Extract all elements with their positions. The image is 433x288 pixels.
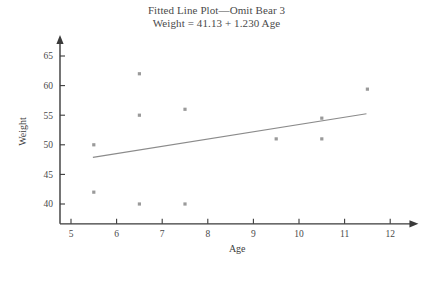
fitted-line-plot: Fitted Line Plot—Omit Bear 3 Weight = 41… — [0, 0, 433, 288]
data-point — [138, 72, 141, 75]
data-point — [320, 137, 323, 140]
x-axis-title: Age — [229, 243, 246, 254]
data-point — [366, 88, 369, 91]
data-point — [138, 114, 141, 117]
data-point — [92, 191, 95, 194]
data-point — [183, 108, 186, 111]
x-tick-label: 7 — [160, 229, 165, 239]
axis-titles: AgeWeight — [17, 117, 246, 254]
y-tick-label: 65 — [44, 51, 54, 61]
data-point — [183, 202, 186, 205]
x-tick-label: 12 — [385, 229, 395, 239]
data-point — [138, 202, 141, 205]
data-points — [92, 72, 369, 205]
chart-canvas: 404550556065 56789101112 AgeWeight — [0, 0, 433, 288]
y-tick-label: 45 — [44, 170, 54, 180]
y-axis-title: Weight — [17, 117, 28, 146]
data-point — [320, 117, 323, 120]
x-tick-label: 6 — [114, 229, 119, 239]
data-point — [92, 143, 95, 146]
y-tick-label: 40 — [44, 199, 54, 209]
x-tick-label: 11 — [340, 229, 349, 239]
y-tick-label: 50 — [44, 140, 54, 150]
regression-line — [93, 114, 367, 158]
x-tick-label: 5 — [69, 229, 74, 239]
x-tick-label: 9 — [251, 229, 256, 239]
y-tick-label: 55 — [44, 111, 54, 121]
y-axis: 404550556065 — [44, 35, 66, 224]
y-tick-label: 60 — [44, 81, 54, 91]
x-tick-label: 10 — [294, 229, 304, 239]
x-axis: 56789101112 — [60, 219, 418, 239]
data-point — [275, 137, 278, 140]
fitted-regression-line — [93, 114, 367, 158]
x-tick-label: 8 — [205, 229, 210, 239]
